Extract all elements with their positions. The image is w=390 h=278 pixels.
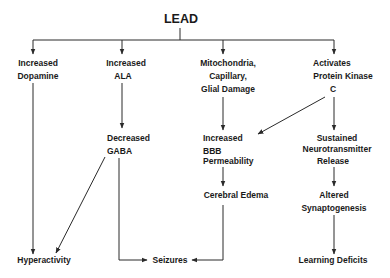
lead-effects-flowchart: LEAD Increased D: [0, 0, 390, 278]
node-seizures: Seizures: [153, 255, 188, 265]
node-label-line: Permeability: [203, 156, 254, 166]
node-cerebral-edema: Cerebral Edema: [204, 190, 269, 200]
node-increased-dopamine: Increased Dopamine: [17, 58, 58, 81]
node-label-line: Sustained: [317, 133, 358, 143]
node-label-line: BBB: [203, 146, 221, 156]
node-sustained-neurotransmitter-release: Sustained Neurotransmitter Release: [303, 133, 373, 166]
node-label-line: Activates: [313, 58, 351, 68]
node-label-line: ALA: [114, 71, 131, 81]
node-label-line: Altered: [319, 190, 348, 200]
node-label-line: Increased: [203, 133, 243, 143]
node-label-line: Dopamine: [17, 71, 58, 81]
node-label-line: GABA: [107, 146, 132, 156]
node-increased-ala: Increased ALA: [106, 58, 146, 81]
title-lead: LEAD: [164, 12, 198, 26]
node-label-line: Mitochondria,: [200, 58, 256, 68]
edge-gaba-to-hyperactivity: [56, 157, 105, 253]
node-label-line: Release: [317, 156, 349, 166]
node-label-line: Glial Damage: [201, 84, 255, 94]
node-label-line: Increased: [18, 58, 58, 68]
node-label-line: Seizures: [153, 255, 188, 265]
node-label-line: Neurotransmitter: [303, 144, 373, 154]
edge-edema-to-seizures: [192, 205, 223, 260]
node-label-line: Learning Deficits: [299, 255, 368, 265]
node-decreased-gaba: Decreased GABA: [107, 133, 150, 156]
edge-gaba-to-seizures: [119, 158, 147, 260]
edges: [33, 28, 334, 260]
node-activates-protein-kinase-c: Activates Protein Kinase C: [313, 58, 373, 94]
node-label-line: C: [330, 84, 336, 94]
node-label-line: Increased: [106, 58, 146, 68]
node-label-line: Cerebral Edema: [204, 190, 269, 200]
node-altered-synaptogenesis: Altered Synaptogenesis: [301, 190, 366, 213]
node-learning-deficits: Learning Deficits: [299, 255, 368, 265]
edge-pkc-to-bbb: [258, 97, 325, 134]
node-label-line: Decreased: [107, 133, 150, 143]
node-label-line: Hyperactivity: [17, 255, 71, 265]
node-increased-bbb-permeability: Increased BBB Permeability: [203, 133, 254, 166]
node-label-line: Protein Kinase: [313, 71, 373, 81]
node-hyperactivity: Hyperactivity: [17, 255, 71, 265]
node-label-line: Capillary,: [209, 71, 247, 81]
node-label-line: Synaptogenesis: [301, 203, 366, 213]
node-mitochondria-damage: Mitochondria, Capillary, Glial Damage: [200, 58, 256, 94]
